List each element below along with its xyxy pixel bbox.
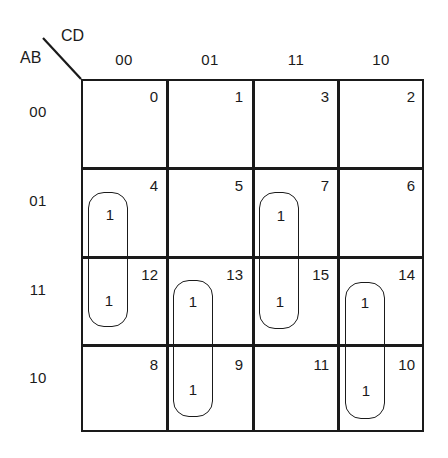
row-variable-label: AB <box>20 49 41 67</box>
cell-index: 7 <box>289 177 329 194</box>
cell-index: 13 <box>203 266 243 283</box>
cell-index: 2 <box>375 88 415 105</box>
grid-divider <box>81 167 424 170</box>
row-header-00: 00 <box>18 103 58 120</box>
cell-index: 11 <box>289 356 329 373</box>
grid-divider <box>81 256 424 259</box>
column-header-01: 01 <box>167 51 253 68</box>
cell-index: 4 <box>118 177 158 194</box>
cell-value: 1 <box>271 207 291 224</box>
row-header-01: 01 <box>18 192 58 209</box>
cell-index: 8 <box>118 356 158 373</box>
cell-value: 1 <box>183 293 203 310</box>
row-header-10: 10 <box>18 369 58 386</box>
column-header-10: 10 <box>338 51 424 68</box>
cell-index: 5 <box>203 177 243 194</box>
cell-value: 1 <box>99 292 119 309</box>
cell-value: 1 <box>270 293 290 310</box>
column-variable-label: CD <box>61 27 84 45</box>
column-header-00: 00 <box>81 51 167 68</box>
cell-index: 6 <box>375 177 415 194</box>
row-header-11: 11 <box>18 281 58 298</box>
cell-index: 14 <box>375 266 415 283</box>
cell-value: 1 <box>183 381 203 398</box>
cell-value: 1 <box>100 206 120 223</box>
cell-value: 1 <box>356 382 376 399</box>
cell-index: 1 <box>203 88 243 105</box>
cell-value: 1 <box>355 294 375 311</box>
cell-index: 3 <box>289 88 329 105</box>
cell-index: 0 <box>118 88 158 105</box>
column-header-11: 11 <box>253 51 339 68</box>
